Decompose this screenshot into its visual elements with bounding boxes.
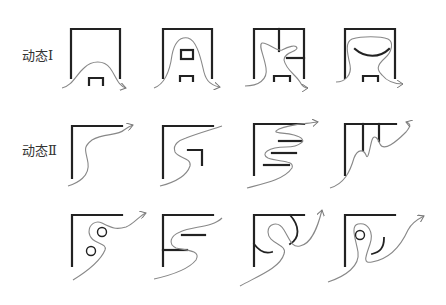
panel-flow-around-box	[154, 29, 220, 88]
panel-flow-around-curve	[336, 29, 403, 84]
panel-flow-under-arch	[62, 29, 126, 88]
panel-corner-comb	[330, 122, 410, 188]
panel-corner-zigzag-bars	[247, 122, 318, 188]
panel-corner-hook	[160, 126, 222, 186]
panel-corner-e-bars	[154, 215, 222, 279]
diagram-canvas	[0, 0, 446, 305]
panel-flow-through-partition	[245, 29, 308, 88]
panel-corner-arc-loop	[240, 210, 322, 286]
panel-corner-circles	[72, 213, 146, 280]
panel-corner-circle-loop	[328, 215, 424, 282]
panel-corner-s-curve	[68, 125, 133, 186]
